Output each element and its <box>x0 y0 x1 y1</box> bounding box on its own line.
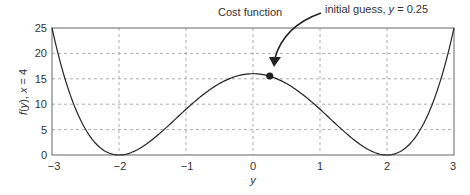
cost-function-chart: Cost function initial guess, y = 0.25 0 … <box>0 0 470 195</box>
initial-guess-marker <box>266 72 273 79</box>
svg-text:5: 5 <box>41 124 47 136</box>
annotation-arrow <box>275 13 321 58</box>
chart-title: Cost function <box>218 6 282 18</box>
x-axis-label: y <box>249 174 257 186</box>
svg-text:0: 0 <box>41 149 47 161</box>
y-axis-label: f(y), x = 4 <box>17 69 29 115</box>
arrow-head-icon <box>269 57 281 67</box>
svg-text:20: 20 <box>35 47 47 59</box>
svg-text:1: 1 <box>317 160 323 172</box>
grid <box>52 28 454 155</box>
svg-text:−1: −1 <box>181 160 194 172</box>
svg-text:25: 25 <box>35 22 47 34</box>
svg-text:−2: −2 <box>114 160 127 172</box>
y-axis-ticks: 0 5 10 15 20 25 <box>35 22 47 161</box>
svg-text:0: 0 <box>250 160 256 172</box>
svg-text:−3: −3 <box>48 160 61 172</box>
x-axis-ticks: −3 −2 −1 0 1 2 3 <box>48 160 456 172</box>
svg-text:10: 10 <box>35 98 47 110</box>
annotation-label: initial guess, y = 0.25 <box>325 3 428 15</box>
svg-text:15: 15 <box>35 73 47 85</box>
svg-text:3: 3 <box>450 160 456 172</box>
svg-text:2: 2 <box>384 160 390 172</box>
